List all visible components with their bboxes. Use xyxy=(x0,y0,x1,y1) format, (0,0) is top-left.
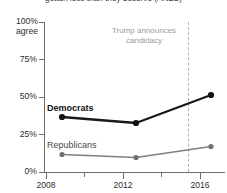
republicans-point-2016 xyxy=(208,144,213,149)
democrats-point-2012 xyxy=(133,120,139,126)
series-label-republicans: Republicans xyxy=(47,140,97,150)
democrats-point-2016 xyxy=(208,92,214,98)
chart-container: gotten less than they deserve (ANES) 100… xyxy=(0,0,227,193)
democrats-point-2008 xyxy=(59,114,65,120)
republicans-point-2008 xyxy=(59,152,64,157)
series-plot-layer xyxy=(0,0,227,193)
republicans-point-2012 xyxy=(133,155,138,160)
series-label-democrats: Democrats xyxy=(47,103,94,113)
